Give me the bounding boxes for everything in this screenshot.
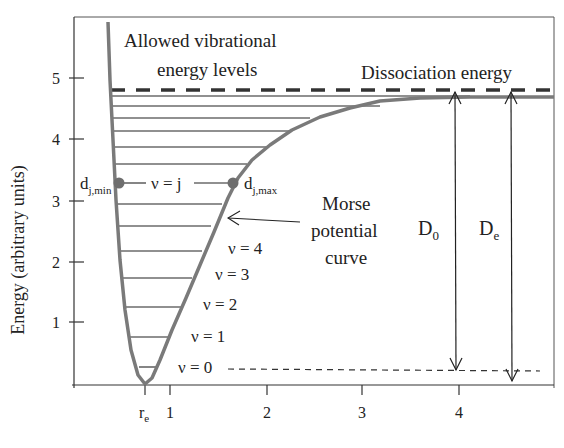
zero-point-dashed-line: [228, 369, 540, 371]
nu-1-label: ν = 1: [191, 327, 225, 346]
vibrational-labels: ν = 0 ν = 1 ν = 2 ν = 3 ν = 4: [178, 239, 263, 377]
levels-title-line2: energy levels: [157, 59, 257, 80]
x-ticks: [145, 385, 459, 395]
x-tick-4: 4: [455, 404, 463, 421]
nu-0-label: ν = 0: [178, 358, 212, 377]
morse-label-line3: curve: [325, 247, 367, 268]
y-tick-2: 2: [52, 254, 60, 271]
x-tick-3: 3: [358, 404, 366, 421]
dj-markers: dj,min dj,max ν = j: [80, 174, 278, 196]
dj-max-dot: [228, 178, 239, 189]
de-arrow: [505, 92, 518, 381]
y-tick-4: 4: [52, 131, 60, 148]
nu-2-label: ν = 2: [203, 295, 237, 314]
morse-label-line2: potential: [311, 220, 377, 241]
y-ticks: [69, 78, 84, 322]
y-axis-label: Energy (arbitrary units): [8, 165, 29, 335]
d0-arrow: [449, 92, 462, 370]
dj-min-label: dj,min: [80, 174, 112, 196]
morse-label-line1: Morse: [322, 193, 371, 214]
x-tick-1: 1: [166, 404, 174, 421]
nu-j-label: ν = j: [151, 174, 182, 193]
d0-label: D0: [418, 217, 439, 243]
y-tick-3: 3: [52, 193, 60, 210]
x-tick-labels: re 1 2 3 4: [139, 404, 463, 424]
y-tick-5: 5: [52, 70, 60, 87]
levels-title-line1: Allowed vibrational: [124, 30, 277, 51]
dj-min-dot: [114, 178, 125, 189]
x-tick-2: 2: [263, 404, 271, 421]
energy-levels: [111, 96, 470, 367]
x-tick-re: re: [139, 404, 149, 424]
y-tick-labels: 1 2 3 4 5: [52, 70, 60, 331]
y-tick-1: 1: [52, 314, 60, 331]
nu-4-label: ν = 4: [228, 239, 263, 258]
nu-3-label: ν = 3: [215, 265, 249, 284]
de-label: De: [479, 217, 499, 243]
dj-max-label: dj,max: [244, 174, 278, 196]
morse-potential-diagram: 1 2 3 4 5 Energy (arbitrary units) re 1 …: [0, 0, 564, 448]
dissociation-energy-label: Dissociation energy: [361, 62, 513, 83]
